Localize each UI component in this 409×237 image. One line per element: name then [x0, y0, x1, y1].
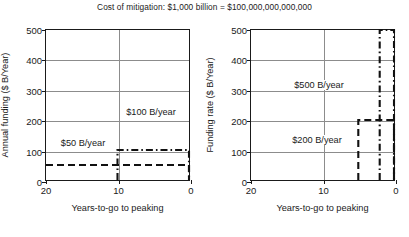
x-axis-title-left: Years-to-go to peaking [45, 203, 190, 213]
figure: Cost of mitigation: $1,000 billion = $10… [0, 0, 409, 237]
annotation-right-200: $200 B/year [291, 135, 343, 145]
y-tick-label: 400 [26, 55, 42, 66]
x-axis-title-right: Years-to-go to peaking [250, 203, 395, 213]
y-tick-label: 500 [26, 25, 42, 36]
y-tick-label: 500 [231, 25, 247, 36]
x-tick-label: 20 [41, 185, 52, 196]
y-tick-label: 300 [26, 85, 42, 96]
series-line-50-b-per-year [46, 165, 189, 180]
y-axis-title-right: Funding rate ($ B/Year) [205, 29, 219, 181]
series-layer-right [251, 30, 394, 180]
series-layer-left [46, 30, 189, 180]
plot-area-left: 0 100 200 300 400 500 20 10 0 $50 [45, 29, 190, 181]
annotation-left-50: $50 B/year [60, 138, 106, 148]
plot-area-right: 0 100 200 300 400 500 20 10 0 $500 B/yea… [250, 29, 395, 181]
series-line-500-b-per-year [380, 30, 394, 180]
x-tick-label: 0 [393, 185, 398, 196]
y-tick-label: 200 [231, 116, 247, 127]
figure-title: Cost of mitigation: $1,000 billion = $10… [0, 2, 409, 12]
y-tick-label: 100 [26, 146, 42, 157]
annotation-left-100: $100 B/year [125, 107, 177, 117]
x-tick-label: 20 [246, 185, 257, 196]
y-tick-label: 200 [26, 116, 42, 127]
x-tick-label: 10 [318, 185, 329, 196]
series-line-200-b-per-year [358, 120, 394, 180]
y-axis-title-left: Annual funding ($ B/Year) [0, 29, 14, 181]
series-line-100-b-per-year [118, 150, 190, 180]
y-tick-label: 400 [231, 55, 247, 66]
x-tick-label: 0 [188, 185, 193, 196]
x-tick-label: 10 [113, 185, 124, 196]
chart-panel-right: Funding rate ($ B/Year) 0 100 200 300 40… [205, 18, 409, 237]
y-tick-label: 300 [231, 85, 247, 96]
chart-panel-left: Annual funding ($ B/Year) 0 100 200 300 … [0, 18, 204, 237]
y-tick-label: 100 [231, 146, 247, 157]
annotation-right-500: $500 B/year [293, 80, 345, 90]
